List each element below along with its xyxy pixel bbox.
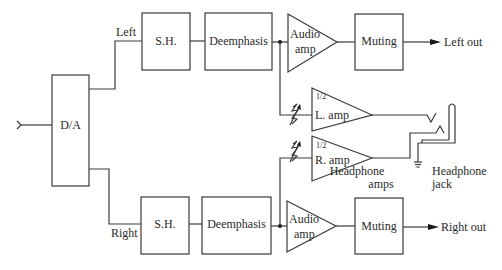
left-sample-hold-block: S.H.: [142, 13, 190, 70]
right-out-label: Right out: [441, 220, 487, 234]
right-channel-wire: [89, 169, 141, 224]
left-audio-amp-label-1: Audio: [290, 27, 320, 41]
left-out-arrow-icon: [430, 39, 441, 45]
left-muting-block: Muting: [355, 14, 403, 70]
audio-output-block-diagram: D/A Left Right S.H. Deemphasis Audio amp…: [0, 0, 502, 270]
left-headphone-amp-label: L. amp: [315, 108, 349, 122]
right-muting-block: Muting: [355, 198, 403, 254]
left-deemphasis-label: Deemphasis: [209, 34, 268, 48]
right-sample-hold-label: S.H.: [154, 217, 175, 231]
input-connector: [17, 121, 52, 129]
headphone-amps-label-1: Headphone: [330, 164, 385, 178]
right-audio-amp-label-2: amp: [294, 227, 315, 241]
left-headphone-amp-fraction: 1/2: [316, 92, 326, 101]
right-audio-amp: Audio amp: [287, 201, 336, 252]
right-headphone-amp-fraction: 1/2: [316, 141, 326, 150]
right-out-arrow-icon: [428, 224, 439, 230]
left-channel-wire: [89, 41, 142, 89]
left-audio-amp-label-2: amp: [295, 42, 316, 56]
left-audio-amp: Audio amp: [288, 14, 337, 72]
right-audio-amp-label-1: Audio: [289, 212, 319, 226]
left-muting-label: Muting: [361, 34, 396, 48]
headphone-jack-label-2: jack: [431, 177, 452, 191]
right-jack-contact-wire: [372, 126, 444, 158]
right-sample-hold-block: S.H.: [141, 197, 189, 254]
left-channel-label: Left: [116, 25, 137, 39]
headphone-amps-label-2: amps: [368, 177, 394, 191]
da-converter-label: D/A: [60, 118, 81, 132]
left-out-label: Left out: [444, 35, 483, 49]
right-deemphasis-label: Deemphasis: [207, 217, 266, 231]
right-muting-label: Muting: [361, 219, 396, 233]
right-channel-label: Right: [111, 226, 138, 240]
left-headphone-amp: 1/2 L. amp: [312, 88, 372, 131]
headphone-jack-label-1: Headphone: [432, 164, 487, 178]
right-deemphasis-block: Deemphasis: [202, 197, 271, 254]
da-converter-block: D/A: [52, 75, 89, 186]
left-jack-contact-wire: [372, 113, 436, 122]
left-deemphasis-block: Deemphasis: [205, 13, 272, 70]
headphone-jack-icon: [414, 104, 455, 167]
left-sample-hold-label: S.H.: [155, 34, 176, 48]
right-volume-control-icon: [290, 141, 301, 162]
